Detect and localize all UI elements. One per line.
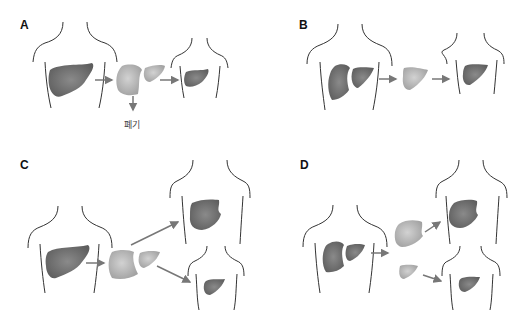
left-lobe-graft-icon xyxy=(399,265,418,279)
donor-right-lobe-icon xyxy=(328,64,350,100)
donor-torso-outline-icon xyxy=(303,205,387,293)
liver-right-lobe-icon xyxy=(116,65,142,96)
recipient-torso-outline-icon xyxy=(442,33,504,94)
liver-left-lobe-icon xyxy=(139,251,160,268)
donor-torso-outline-icon xyxy=(307,24,392,110)
transplanted-liver-icon xyxy=(463,64,488,85)
panel-c xyxy=(28,160,250,310)
panel-d xyxy=(303,160,507,310)
liver-icon xyxy=(46,245,90,278)
recipient-torso-outline-icon xyxy=(171,38,228,98)
liver-right-lobe-icon xyxy=(109,250,138,279)
liver-icon xyxy=(49,63,94,97)
child-recipient-torso-outline-icon xyxy=(188,246,244,310)
donor-left-lobe-icon xyxy=(352,67,374,88)
transplanted-liver-icon xyxy=(184,69,208,87)
child-graft-liver-icon xyxy=(459,277,480,292)
right-lobe-graft-icon xyxy=(395,220,423,247)
panel-a xyxy=(33,22,228,110)
adult-graft-liver-icon xyxy=(449,200,478,228)
child-graft-liver-icon xyxy=(204,279,225,295)
donor-right-lobe-icon xyxy=(323,241,344,272)
liver-transplant-diagram xyxy=(0,0,525,319)
graft-liver-icon xyxy=(403,67,428,90)
panel-b xyxy=(307,24,504,110)
adult-graft-liver-icon xyxy=(190,199,221,230)
donor-left-lobe-icon xyxy=(346,244,365,261)
